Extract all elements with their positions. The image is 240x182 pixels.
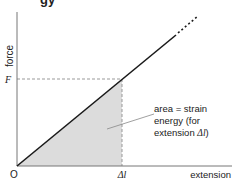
force-marker-label: F <box>4 74 12 85</box>
annotation-line-1: area = strain <box>154 103 207 114</box>
origin-label: O <box>10 169 18 180</box>
extension-marker-label: Δl <box>117 169 127 180</box>
annotation-line-3: extension Δl) <box>154 127 209 138</box>
y-axis-label: force <box>4 44 15 67</box>
extrapolation-line <box>178 16 198 33</box>
title-fragment: gy <box>40 0 56 7</box>
x-axis-label: extension <box>190 169 231 180</box>
force-extension-diagram: gy force F O Δl extension area = strain … <box>0 0 240 182</box>
annotation-line-2: energy (for <box>154 115 200 126</box>
